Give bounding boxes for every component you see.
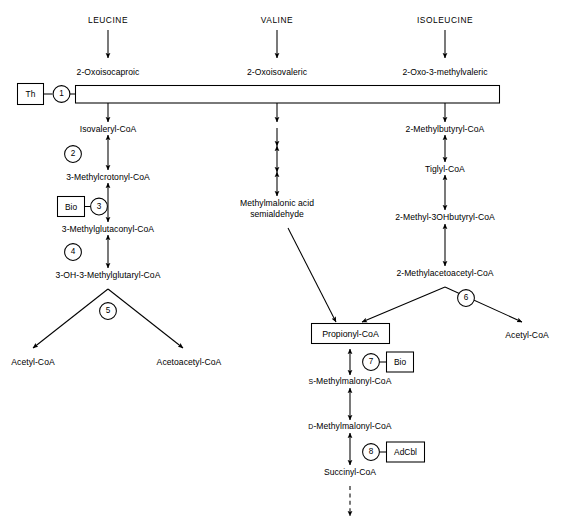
label-acetoacetyl-coa: Acetoacetyl-CoA (157, 357, 222, 368)
label-acetyl-coa-right: Acetyl-CoA (505, 330, 548, 341)
cofactor-label-adcbl: AdCbl (394, 447, 417, 457)
label-methylmalonic-acid-semialdehyde: Methylmalonic acid semialdehyde (212, 198, 342, 219)
enzyme-label-2: 2 (65, 146, 81, 162)
cofactor-label-bio-7: Bio (394, 357, 406, 367)
label-semialdehyde-line2: semialdehyde (250, 209, 304, 219)
label-isoleucine: ISOLEUCINE (417, 15, 473, 26)
label-2-oxoisocaproic: 2-Oxoisocaproic (77, 67, 140, 78)
label-succinyl-coa: Succinyl-CoA (324, 467, 376, 478)
label-semialdehyde-line1: Methylmalonic acid (240, 198, 314, 208)
label-acetyl-coa-left: Acetyl-CoA (11, 357, 54, 368)
label-2-methylacetoacetyl-coa: 2-Methylacetoacetyl-CoA (396, 268, 493, 279)
label-d-methylmalonyl-coa: D-Methylmalonyl-CoA (308, 421, 391, 432)
label-2-methylbutyryl-coa: 2-Methylbutyryl-CoA (406, 124, 485, 135)
label-s-methylmalonyl-coa: S-Methylmalonyl-CoA (309, 376, 392, 387)
enzyme-label-1: 1 (54, 86, 70, 102)
enzyme-label-4: 4 (65, 244, 81, 260)
enzyme-label-3: 3 (91, 199, 107, 215)
label-3-oh-3-methylglutaryl-coa: 3-OH-3-Methylglutaryl-CoA (56, 270, 161, 281)
pathway-lines (0, 0, 562, 529)
label-2-methyl-3ohbutyryl-coa: 2-Methyl-3OHbutyryl-CoA (395, 212, 495, 223)
label-tiglyl-coa: Tiglyl-CoA (425, 164, 465, 175)
label-isovaleryl-coa: Isovaleryl-CoA (80, 124, 137, 135)
label-propionyl-coa: Propionyl-CoA (322, 329, 379, 339)
label-2-oxo-3-methylvaleric: 2-Oxo-3-methylvaleric (402, 67, 487, 78)
cofactor-label-bio-3: Bio (65, 202, 77, 212)
arrow-hmgcoa-to-acetylcoa (33, 289, 108, 348)
arrow-methylacetoacetyl-to-propionyl (362, 287, 445, 322)
bckdh-enzyme-bar (76, 86, 500, 104)
label-3-methylglutaconyl-coa: 3-Methylglutaconyl-CoA (62, 224, 154, 235)
label-d-methylmalonyl-coa-text: -Methylmalonyl-CoA (313, 421, 391, 431)
label-3-methylcrotonyl-coa: 3-Methylcrotonyl-CoA (66, 172, 150, 183)
cofactor-label-th: Th (26, 89, 36, 99)
arrow-methylacetoacetyl-to-acetylcoa (445, 287, 522, 322)
enzyme-label-7: 7 (363, 354, 379, 370)
label-s-methylmalonyl-coa-text: -Methylmalonyl-CoA (313, 376, 391, 386)
label-valine: VALINE (261, 15, 293, 26)
enzyme-label-5: 5 (100, 303, 116, 319)
label-2-oxoisovaleric: 2-Oxoisovaleric (247, 67, 307, 78)
arrow-hmgcoa-to-acetoacetyl (108, 289, 183, 348)
arrow-semialdehyde-to-propionyl (288, 228, 336, 322)
pathway-diagram: LEUCINE VALINE ISOLEUCINE 2-Oxoisocaproi… (0, 0, 562, 529)
label-leucine: LEUCINE (88, 15, 128, 26)
enzyme-label-6: 6 (458, 290, 474, 306)
enzyme-label-8: 8 (363, 444, 379, 460)
